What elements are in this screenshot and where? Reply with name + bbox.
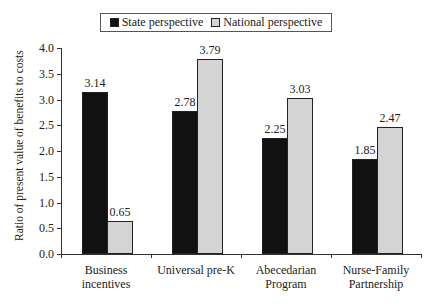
y-tick-label: 4.0	[20, 42, 54, 54]
y-tick-label: 0.0	[20, 248, 54, 260]
y-tick	[57, 100, 61, 101]
x-tick	[241, 254, 242, 258]
category-label: Universal pre-K	[151, 263, 241, 291]
y-tick-label: 3.0	[20, 94, 54, 106]
bar-national	[107, 221, 133, 254]
y-tick	[57, 228, 61, 229]
bar-national	[377, 127, 403, 254]
category-label: AbecedarianProgram	[241, 263, 331, 291]
legend: State perspective National perspective	[100, 13, 332, 32]
legend-item-national: National perspective	[211, 15, 322, 30]
legend-item-state: State perspective	[110, 15, 204, 30]
category-label-line: Program	[241, 277, 331, 291]
y-tick	[57, 48, 61, 49]
y-tick	[57, 74, 61, 75]
x-tick	[331, 254, 332, 258]
bar-state	[82, 92, 108, 254]
y-tick-label: 2.5	[20, 119, 54, 131]
bar-state	[262, 138, 288, 254]
y-tick-label: 3.5	[20, 68, 54, 80]
bar-value-label: 3.79	[190, 44, 230, 56]
bar-value-label: 2.47	[370, 112, 410, 124]
y-tick-label: 2.0	[20, 145, 54, 157]
bar-value-label: 3.14	[75, 77, 115, 89]
category-label-line: Nurse-Family	[331, 263, 421, 277]
y-tick	[57, 177, 61, 178]
category-label-line: Partnership	[331, 277, 421, 291]
legend-swatch-state	[110, 18, 119, 27]
category-label: Nurse-FamilyPartnership	[331, 263, 421, 291]
y-tick-label: 1.0	[20, 197, 54, 209]
legend-label-national: National perspective	[223, 15, 322, 30]
category-label-line: incentives	[61, 277, 151, 291]
x-tick	[151, 254, 152, 258]
category-label-line: Universal pre-K	[151, 263, 241, 277]
category-label-line: Abecedarian	[241, 263, 331, 277]
bar-national	[287, 98, 313, 254]
y-tick-label: 1.5	[20, 171, 54, 183]
legend-swatch-national	[211, 18, 220, 27]
y-tick-label: 0.5	[20, 222, 54, 234]
bar-state	[352, 159, 378, 254]
y-tick	[57, 203, 61, 204]
bar-national	[197, 59, 223, 254]
y-axis	[61, 48, 62, 255]
bar-value-label: 3.03	[280, 83, 320, 95]
legend-label-state: State perspective	[122, 15, 204, 30]
x-tick	[61, 254, 62, 258]
y-tick	[57, 125, 61, 126]
category-label-line: Business	[61, 263, 151, 277]
y-tick	[57, 151, 61, 152]
bar-state	[172, 111, 198, 254]
x-tick	[421, 254, 422, 258]
category-label-line	[151, 277, 241, 291]
category-label: Businessincentives	[61, 263, 151, 291]
bar-value-label: 0.65	[100, 206, 140, 218]
